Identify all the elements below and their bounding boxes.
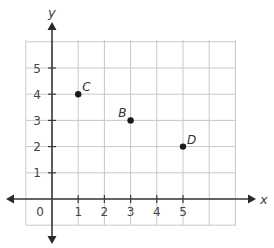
coordinate-plane: xy 12345123450 CBD [0,0,274,248]
y-tick-label: 3 [33,114,41,128]
point-d [180,143,186,149]
point-c [75,91,81,97]
x-tick-label: 3 [127,205,135,219]
points: CBD [75,80,196,150]
y-tick-label: 4 [33,88,41,102]
y-axis-label: y [47,5,56,20]
x-axis-label: x [259,192,268,207]
x-tick-label: 1 [74,205,82,219]
point-b [127,117,133,123]
x-tick-label: 4 [153,205,161,219]
x-tick-label: 5 [179,205,187,219]
point-label-d: D [187,133,196,147]
y-axis-down-arrow-icon [48,236,57,244]
axes: xy [6,5,268,244]
y-tick-label: 5 [33,62,41,76]
point-label-c: C [82,80,91,94]
origin-label: 0 [36,205,44,219]
y-axis-up-arrow-icon [48,22,57,30]
ticks: 12345123450 [33,62,186,220]
x-axis-left-arrow-icon [6,195,14,204]
x-axis-right-arrow-icon [248,195,256,204]
y-tick-label: 1 [33,166,41,180]
y-tick-label: 2 [33,140,41,154]
point-label-b: B [118,106,126,120]
x-tick-label: 2 [101,205,109,219]
